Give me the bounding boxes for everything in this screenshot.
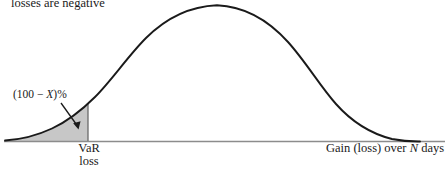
confidence-level-label: (100 − X)%	[13, 88, 67, 100]
confidence-label-suffix: )%	[53, 88, 66, 100]
bell-curve	[5, 5, 420, 141]
var-distribution-figure: losses are negative (100 − X)% VaR loss …	[0, 0, 447, 171]
confidence-label-prefix: (100 −	[13, 88, 46, 100]
x-axis-label-variable: N	[410, 141, 418, 155]
x-axis-label: Gain (loss) over N days	[326, 142, 444, 155]
loss-axis-label: loss	[72, 155, 106, 168]
x-axis-label-suffix: days	[418, 141, 444, 155]
top-note-text: losses are negative	[11, 0, 105, 10]
x-axis-label-prefix: Gain (loss) over	[326, 141, 410, 155]
